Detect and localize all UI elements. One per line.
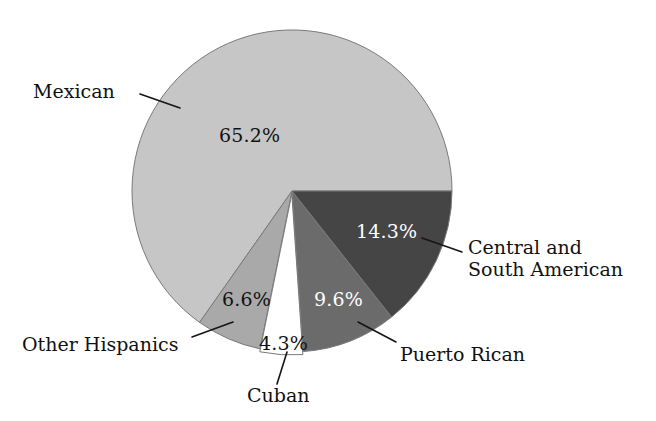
pie-chart-canvas xyxy=(0,0,656,421)
pie-value-label-cuban: 4.3% xyxy=(259,334,308,353)
pie-category-label-central-line1: Central and xyxy=(468,236,623,258)
pie-value-label-puerto-rican: 9.6% xyxy=(314,290,363,309)
pie-category-label-puerto-rican: Puerto Rican xyxy=(400,343,525,365)
pie-category-label-cuban: Cuban xyxy=(247,384,310,406)
pie-value-label-other-hispanics: 6.6% xyxy=(222,290,271,309)
pie-category-label-mexican: Mexican xyxy=(33,80,115,102)
leader-line-cuban xyxy=(277,352,287,384)
pie-chart: 65.2% 14.3% 9.6% 4.3% 6.6% Mexican Centr… xyxy=(0,0,656,421)
pie-category-label-central-south-american: Central and South American xyxy=(468,236,623,281)
pie-value-label-central-south-american: 14.3% xyxy=(356,222,417,241)
pie-value-label-mexican: 65.2% xyxy=(219,126,280,145)
pie-category-label-central-line2: South American xyxy=(468,258,623,280)
pie-category-label-other-hispanics: Other Hispanics xyxy=(22,333,178,355)
